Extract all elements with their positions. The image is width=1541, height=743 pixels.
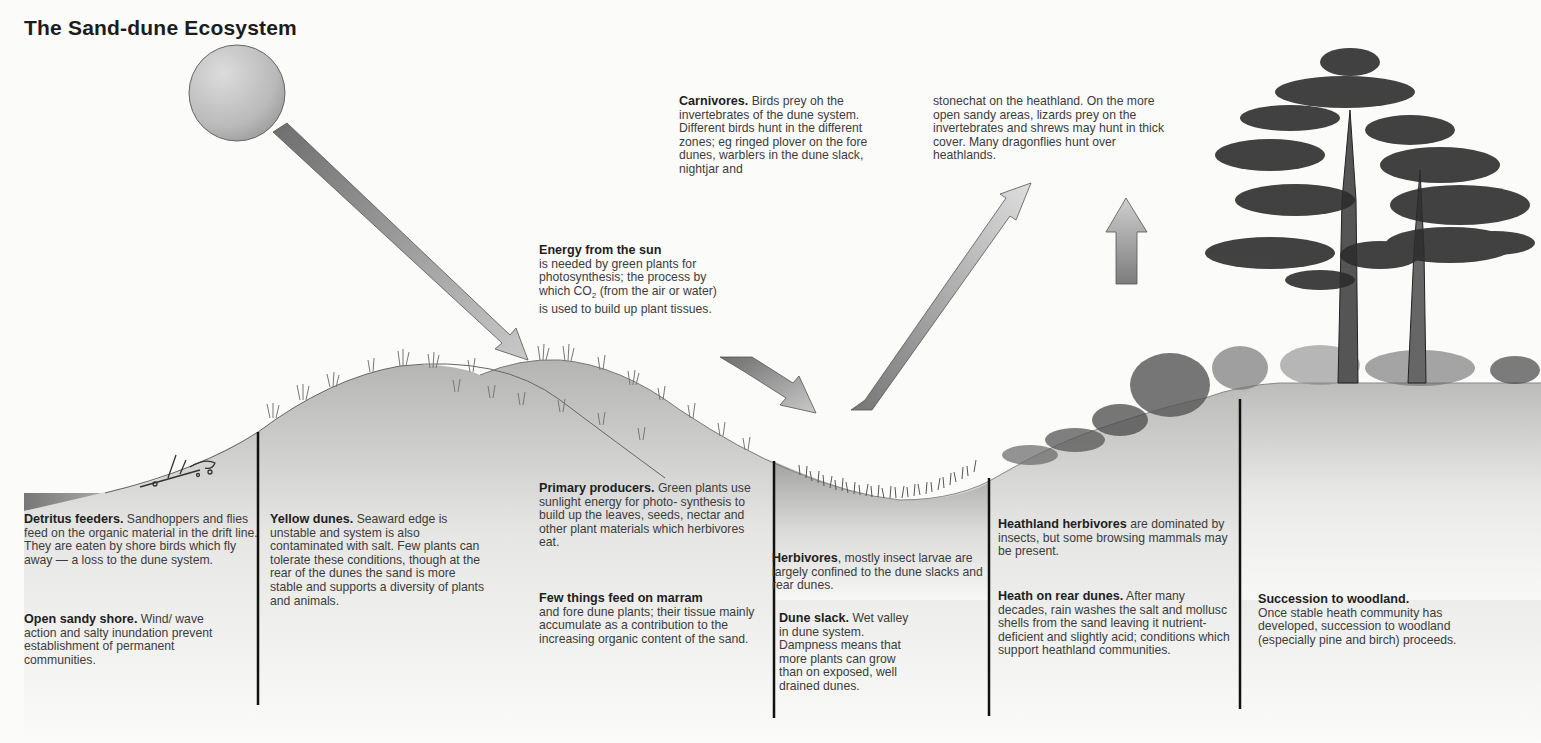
energy-heading: Energy from the sun [539,243,661,257]
primary-producers-heading: Primary producers. [539,481,655,495]
pine-tree-icon [1205,48,1535,383]
detritus-heading: Detritus feeders. [24,512,123,526]
woodland-text: Once stable heath community has develope… [1258,606,1457,647]
carnivores-label: Carnivores. Birds prey oh the invertebra… [679,95,894,177]
open-shore-label: Open sandy shore. Wind/ wave action and … [24,613,219,667]
woodland-plateau [1240,383,1541,600]
dune-slack-heading: Dune slack. [779,611,849,625]
small-flow-arrow-icon [720,357,816,413]
marram-heading: Few things feed on marram [539,591,703,605]
herbivores-label: Herbivores, mostly insect larvae are lar… [772,552,994,593]
dune-slack-label: Dune slack. Wet valley in dune system. D… [779,612,919,694]
sun-icon [189,45,285,141]
herbivores-heading: Herbivores [772,551,838,565]
yellow-dunes-heading: Yellow dunes. [270,512,353,526]
marram-label: Few things feed on marram and fore dune … [539,592,764,646]
heath-rear-heading: Heath on rear dunes. [998,589,1123,603]
carnivore-arrow-icon [851,183,1031,410]
heathland-herbivores-label: Heathland herbivores are dominated by in… [998,518,1238,559]
energy-arrow-icon [273,123,528,360]
primary-producers-label: Primary producers. Green plants use sunl… [539,482,764,550]
succession-arrow-icon [1106,198,1147,284]
marram-text: and fore dune plants; their tissue mainl… [539,605,754,646]
detritus-label: Detritus feeders. Sandhoppers and flies … [24,513,259,567]
carnivores-continued-text: stonechat on the heathland. On the more … [933,94,1164,162]
yellow-dunes-label: Yellow dunes. Seaward edge is unstable a… [270,513,485,608]
woodland-heading: Succession to woodland. [1258,592,1409,606]
yellow-dunes-text: Seaward edge is unstable and system is a… [270,512,484,608]
woodland-label: Succession to woodland. Once stable heat… [1258,593,1483,647]
carnivores-continued-label: stonechat on the heathland. On the more … [933,95,1178,163]
energy-label: Energy from the sun is needed by green p… [539,244,729,316]
heathland-herbivores-heading: Heathland herbivores [998,517,1127,531]
open-shore-heading: Open sandy shore. [24,612,137,626]
carnivores-heading: Carnivores. [679,94,748,108]
heath-rear-label: Heath on rear dunes. After many decades,… [998,590,1233,658]
